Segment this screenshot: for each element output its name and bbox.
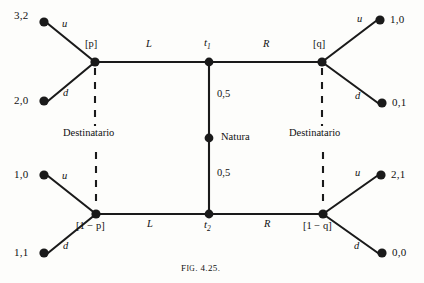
node-nature bbox=[205, 134, 214, 143]
edge-bottom-right-u bbox=[323, 176, 377, 214]
payoff-top-left-down: 2,0 bbox=[14, 95, 28, 106]
message-label-top-left: L bbox=[146, 39, 152, 50]
node-receiver-bottom bbox=[318, 209, 327, 218]
edge-top-left-d bbox=[48, 62, 95, 101]
terminal-node-top-right-up bbox=[375, 15, 384, 24]
payoff-bottom-right-up: 2,1 bbox=[391, 169, 405, 180]
payoff-bottom-right-down: 0,0 bbox=[392, 247, 406, 258]
payoff-top-right-down: 0,1 bbox=[392, 97, 406, 108]
terminal-node-top-left-up bbox=[39, 17, 48, 26]
payoff-bottom-left-down: 1,1 bbox=[14, 247, 28, 258]
figure-caption-smallcaps: IG bbox=[186, 264, 195, 273]
figure-caption: FIG. 4.25. bbox=[181, 264, 220, 273]
probability-label-lower: 0,5 bbox=[217, 168, 230, 179]
action-label-bottom-right-down: d bbox=[354, 241, 359, 252]
type-label-t2-sub: 2 bbox=[207, 224, 211, 233]
probability-label-upper: 0,5 bbox=[217, 89, 230, 100]
message-label-bottom-right: R bbox=[264, 219, 270, 230]
game-tree-figure: 3,2 2,0 1,0 0,1 1,0 1,1 2,1 0,0 u d u d … bbox=[0, 0, 424, 283]
node-sender-top bbox=[90, 57, 99, 66]
action-label-top-left-down: d bbox=[63, 88, 68, 99]
edge-bottom-left-u bbox=[48, 176, 96, 214]
action-label-top-left-up: u bbox=[62, 19, 67, 30]
action-label-bottom-left-up: u bbox=[62, 171, 67, 182]
action-label-top-right-up: u bbox=[357, 14, 362, 25]
player-label-nature: Natura bbox=[221, 132, 250, 143]
node-type-t1 bbox=[205, 58, 214, 67]
message-label-bottom-left: L bbox=[147, 219, 153, 230]
payoff-bottom-left-up: 1,0 bbox=[14, 169, 28, 180]
belief-label-sender-top: [p] bbox=[85, 39, 97, 50]
type-label-t1-sub: 1 bbox=[207, 42, 211, 51]
terminal-node-bottom-right-up bbox=[376, 170, 385, 179]
type-label-t2: t2 bbox=[204, 219, 211, 233]
belief-label-receiver-bottom: [1 − q] bbox=[303, 221, 332, 232]
terminal-node-bottom-left-up bbox=[39, 170, 48, 179]
edge-top-right-u bbox=[322, 21, 376, 62]
terminal-node-top-left-down bbox=[39, 96, 48, 105]
action-label-bottom-left-down: d bbox=[63, 241, 68, 252]
terminal-node-bottom-left-down bbox=[39, 248, 48, 257]
action-label-bottom-right-up: u bbox=[355, 168, 360, 179]
message-label-top-right: R bbox=[263, 39, 269, 50]
figure-caption-number: . 4.25. bbox=[195, 263, 220, 273]
action-label-top-right-down: d bbox=[355, 91, 360, 102]
type-label-t1: t1 bbox=[204, 37, 211, 51]
player-label-receiver-bottom: Destinatario bbox=[289, 128, 340, 139]
belief-label-sender-bottom: [1 − p] bbox=[76, 221, 105, 232]
belief-label-receiver-top: [q] bbox=[313, 39, 325, 50]
terminal-node-bottom-right-down bbox=[377, 248, 386, 257]
node-receiver-top bbox=[317, 57, 326, 66]
terminal-node-top-right-down bbox=[377, 98, 386, 107]
node-sender-bottom bbox=[91, 209, 100, 218]
player-label-receiver-top: Destinatario bbox=[63, 128, 114, 139]
payoff-top-right-up: 1,0 bbox=[390, 14, 404, 25]
edge-top-right-d bbox=[322, 62, 378, 103]
payoff-top-left-up: 3,2 bbox=[14, 10, 28, 21]
